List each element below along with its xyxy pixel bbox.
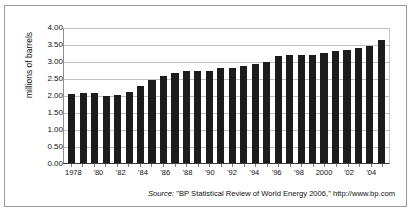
y-tick-label: 1.50 bbox=[35, 109, 63, 117]
bar bbox=[320, 53, 327, 163]
x-tick-label: '92 bbox=[227, 167, 238, 181]
x-tick-label: '90 bbox=[204, 167, 215, 181]
bar-slot bbox=[250, 29, 261, 163]
y-tick-label: 1.00 bbox=[35, 126, 63, 134]
bar-slot bbox=[341, 29, 352, 163]
bar bbox=[183, 71, 190, 163]
bar-slot bbox=[169, 29, 180, 163]
bar bbox=[217, 68, 224, 163]
x-tick-label bbox=[282, 167, 293, 181]
x-axis-tick-labels: 1978'80'82'84'86'88'90'92'94'96'982000'0… bbox=[63, 167, 390, 181]
bar-slot bbox=[353, 29, 364, 163]
bar bbox=[80, 93, 87, 163]
bar-slot bbox=[77, 29, 88, 163]
y-tick-label: 0.50 bbox=[35, 143, 63, 151]
bar-slot bbox=[284, 29, 295, 163]
bar-slot bbox=[135, 29, 146, 163]
y-tick-label: 2.50 bbox=[35, 75, 63, 83]
bar bbox=[68, 94, 75, 163]
x-tick-label bbox=[149, 167, 160, 181]
bar-slot bbox=[318, 29, 329, 163]
bar-slot bbox=[307, 29, 318, 163]
x-tick-label bbox=[215, 167, 226, 181]
x-tick-label bbox=[305, 167, 316, 181]
bar-slot bbox=[204, 29, 215, 163]
x-tick-label: '02 bbox=[343, 167, 354, 181]
bar bbox=[148, 80, 155, 163]
bar-slot bbox=[192, 29, 203, 163]
bar bbox=[229, 68, 236, 163]
bar bbox=[275, 56, 282, 163]
x-tick-label bbox=[332, 167, 343, 181]
bar-slot bbox=[295, 29, 306, 163]
x-tick-label: '84 bbox=[137, 167, 148, 181]
bar-series bbox=[64, 29, 389, 163]
bar-slot bbox=[123, 29, 134, 163]
bar bbox=[137, 86, 144, 163]
bar-slot bbox=[89, 29, 100, 163]
bar bbox=[343, 50, 350, 163]
source-caption: Source: "BP Statistical Review of World … bbox=[95, 189, 395, 198]
x-tick-label: '82 bbox=[115, 167, 126, 181]
bar-slot bbox=[376, 29, 387, 163]
bar bbox=[286, 55, 293, 163]
x-tick-label bbox=[238, 167, 249, 181]
bar-slot bbox=[261, 29, 272, 163]
bar-slot bbox=[215, 29, 226, 163]
x-tick-label bbox=[355, 167, 366, 181]
bar-slot bbox=[364, 29, 375, 163]
x-tick-label bbox=[377, 167, 388, 181]
x-tick-label: '94 bbox=[249, 167, 260, 181]
source-label: Source: bbox=[148, 189, 174, 198]
bar bbox=[171, 73, 178, 163]
x-tick-label: '86 bbox=[160, 167, 171, 181]
bar-slot bbox=[227, 29, 238, 163]
x-tick-label: 1978 bbox=[65, 167, 82, 181]
x-tick-label: 2000 bbox=[316, 167, 333, 181]
bar-slot bbox=[146, 29, 157, 163]
y-tick-label: 2.00 bbox=[35, 92, 63, 100]
bar bbox=[332, 51, 339, 163]
bar bbox=[91, 93, 98, 163]
x-tick-label bbox=[126, 167, 137, 181]
y-tick-label: 4.00 bbox=[35, 24, 63, 32]
x-tick-label bbox=[260, 167, 271, 181]
x-tick-label bbox=[104, 167, 115, 181]
source-text: "BP Statistical Review of World Energy 2… bbox=[176, 189, 395, 198]
bar-slot bbox=[181, 29, 192, 163]
x-tick-label: '04 bbox=[366, 167, 377, 181]
plot-area bbox=[63, 28, 390, 164]
bar-slot bbox=[158, 29, 169, 163]
bar-slot bbox=[238, 29, 249, 163]
x-tick-label: '88 bbox=[182, 167, 193, 181]
figure-frame: millions of barrels 4.003.503.002.502.00… bbox=[4, 5, 407, 207]
bar bbox=[355, 48, 362, 163]
y-tick-label: 3.00 bbox=[35, 58, 63, 66]
bar bbox=[240, 66, 247, 163]
bar-slot bbox=[112, 29, 123, 163]
chart-figure: millions of barrels 4.003.503.002.502.00… bbox=[0, 0, 414, 216]
x-tick-label: '96 bbox=[271, 167, 282, 181]
bar bbox=[298, 55, 305, 163]
bar bbox=[263, 62, 270, 163]
bar-slot bbox=[330, 29, 341, 163]
bar bbox=[103, 96, 110, 163]
bar bbox=[194, 71, 201, 163]
y-axis-tick-labels: 4.003.503.002.502.001.501.000.500.00 bbox=[35, 24, 63, 169]
x-tick-label: '98 bbox=[293, 167, 304, 181]
x-tick-label bbox=[171, 167, 182, 181]
bar-slot bbox=[272, 29, 283, 163]
bar bbox=[160, 76, 167, 163]
bar bbox=[252, 64, 259, 163]
x-tick-label bbox=[82, 167, 93, 181]
y-tick-label: 3.50 bbox=[35, 41, 63, 49]
bar-slot bbox=[100, 29, 111, 163]
bar bbox=[309, 55, 316, 163]
bar bbox=[114, 95, 121, 163]
bar bbox=[206, 71, 213, 163]
bar-slot bbox=[66, 29, 77, 163]
bar bbox=[366, 46, 373, 163]
y-axis-title: millions of barrels bbox=[22, 17, 36, 113]
bar bbox=[126, 92, 133, 163]
bar bbox=[378, 40, 385, 163]
